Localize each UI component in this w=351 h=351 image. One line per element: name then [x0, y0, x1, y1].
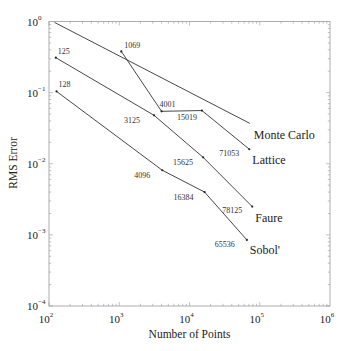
series-line-lattice	[121, 51, 249, 149]
point-label: 1069	[124, 41, 140, 50]
y-tick-label: 100	[27, 14, 42, 28]
point-label: 4096	[134, 171, 150, 180]
data-point	[161, 169, 163, 171]
data-point	[201, 109, 203, 111]
data-point	[251, 205, 253, 207]
data-point	[160, 110, 162, 112]
y-tick-label: 10−2	[27, 156, 46, 170]
series-line-monte-carlo	[55, 22, 250, 123]
series-monte-carlo: Monte Carlo	[55, 22, 315, 142]
point-label: 128	[59, 80, 71, 89]
y-axis-title: RMS Error	[7, 137, 19, 189]
series-lattice: 106940011501971053Lattice	[120, 41, 285, 167]
data-point	[55, 57, 57, 59]
x-tick-label: 102	[39, 311, 54, 325]
y-tick-label: 10−3	[27, 227, 46, 241]
point-label: 71053	[219, 149, 239, 158]
series-group: Monte Carlo106940011501971053Lattice1253…	[55, 22, 315, 256]
data-point	[202, 156, 204, 158]
axes: 10210310410510610010−110−210−310−4	[27, 14, 335, 326]
data-point	[120, 50, 122, 52]
rms-error-chart: 10210310410510610010−110−210−310−4 Monte…	[0, 0, 351, 351]
data-point	[153, 114, 155, 116]
x-tick-label: 105	[250, 311, 265, 325]
x-tick-label: 104	[179, 311, 194, 325]
series-label-sobol: Sobol'	[250, 243, 280, 257]
series-label-faure: Faure	[255, 211, 282, 225]
data-point	[246, 239, 248, 241]
y-tick-label: 10−1	[27, 85, 46, 99]
point-label: 16384	[174, 193, 194, 202]
point-label: 125	[58, 47, 70, 56]
series-label-monte-carlo: Monte Carlo	[254, 128, 315, 142]
point-label: 15019	[177, 113, 197, 122]
series-faure: 12531251562578125Faure	[55, 47, 283, 225]
data-point	[203, 191, 205, 193]
y-tick-label: 10−4	[27, 298, 46, 312]
data-point	[55, 90, 57, 92]
point-label: 15625	[173, 158, 193, 167]
series-line-faure	[56, 58, 252, 207]
x-tick-label: 106	[320, 311, 335, 325]
data-point	[248, 148, 250, 150]
x-axis-title: Number of Points	[149, 328, 231, 340]
point-label: 3125	[124, 116, 140, 125]
x-tick-label: 103	[109, 311, 124, 325]
series-label-lattice: Lattice	[252, 153, 285, 167]
point-label: 78125	[222, 206, 242, 215]
point-label: 4001	[160, 100, 176, 109]
point-label: 65536	[215, 240, 235, 249]
